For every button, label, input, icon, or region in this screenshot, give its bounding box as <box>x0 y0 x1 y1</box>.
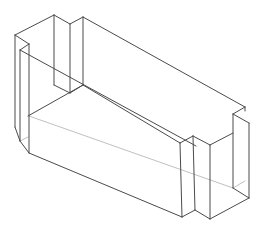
edge <box>193 136 210 145</box>
edge <box>20 50 196 146</box>
hidden-edge <box>20 137 28 141</box>
edge <box>28 85 83 116</box>
edge <box>195 210 210 219</box>
edge <box>180 136 193 143</box>
edge <box>233 114 249 123</box>
edge <box>83 17 245 107</box>
drawing-canvas <box>0 0 262 232</box>
edge <box>182 210 195 217</box>
edge <box>15 35 29 44</box>
edge <box>15 15 54 35</box>
edge <box>193 136 195 210</box>
edge <box>180 143 182 217</box>
edge <box>15 127 20 141</box>
edge <box>210 198 249 219</box>
edge <box>70 17 83 24</box>
edge <box>20 141 29 153</box>
edge <box>54 85 70 93</box>
edge <box>233 107 245 114</box>
edge <box>54 15 70 24</box>
wireframe-drawing <box>0 0 262 232</box>
edge <box>210 133 233 145</box>
hidden-edge <box>233 181 245 188</box>
hidden-edge <box>29 116 233 188</box>
edge <box>29 153 182 217</box>
edge <box>233 188 249 198</box>
edge <box>83 85 180 143</box>
edge <box>20 44 29 50</box>
